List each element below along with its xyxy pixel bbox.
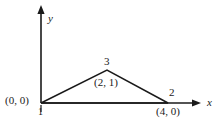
vertex-1-coordinate-label: (0, 0) xyxy=(5,95,29,106)
diagram-canvas xyxy=(0,0,224,125)
x-axis-arrowhead-icon xyxy=(192,99,201,106)
geometry-figure: y x (0, 0) 1 2 (4, 0) 3 (2, 1) xyxy=(0,0,224,125)
vertex-2-number-label: 2 xyxy=(169,87,175,98)
vertex-1-number-label: 1 xyxy=(38,107,43,117)
x-axis-label: x xyxy=(207,97,212,108)
y-axis-arrowhead-icon xyxy=(37,5,44,14)
vertex-2-coordinate-label: (4, 0) xyxy=(156,106,180,117)
vertex-3-coordinate-label: (2, 1) xyxy=(94,77,118,88)
y-axis-label: y xyxy=(48,13,53,24)
vertex-3-number-label: 3 xyxy=(104,56,110,67)
